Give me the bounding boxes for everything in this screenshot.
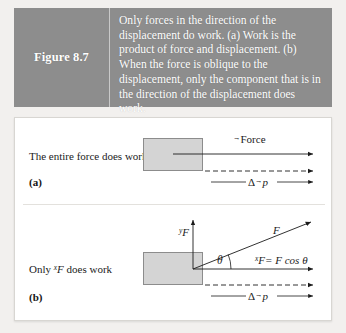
vector-arrow-icon: → [255,176,263,185]
panel-a-description: The entire force does work [29,150,148,162]
panel-a-momentum-symbol: p [263,176,269,188]
vector-arrow-icon: → [255,290,263,299]
panel-a-letter: (a) [29,176,42,188]
panel-b-vertical-symbol: F [182,226,189,238]
figure-label-cell: Figure 8.7 [14,8,110,107]
panel-b-angle-label: θ [217,254,223,266]
panel-b-letter: (b) [29,291,42,303]
figure-caption-text: Only forces in the direction of the disp… [119,14,324,117]
panel-b-momentum-label: Δ→p [248,290,268,302]
panel-a-force-label: →Force [233,133,266,145]
diagram-panel: The entire force does work →Force Δ→p (a… [14,117,332,321]
figure-number-label: Figure 8.7 [34,50,89,65]
panel-a-force-label-text: Force [241,133,266,145]
panel-b-description: Only xF does work [29,263,112,275]
panel-b-oblique-force-label: F [273,224,280,236]
panel-a-momentum-label: Δ→p [248,176,268,188]
figure-caption-cell: Only forces in the direction of the disp… [110,8,332,107]
panel-a: The entire force does work →Force Δ→p (a… [15,118,331,204]
panel-b-component-equation: xF= F cos θ [255,254,308,266]
figure-8-7-root: Figure 8.7 Only forces in the direction … [0,0,346,333]
vector-arrow-icon: → [233,133,241,142]
panel-b-block [143,252,203,285]
panel-a-block [143,138,203,171]
panel-b-description-prefix: Only [29,263,54,275]
panel-b-equation-rhs: = F cos θ [265,254,307,266]
figure-caption-band: Figure 8.7 Only forces in the direction … [14,8,332,107]
panel-b-angle-arc [228,255,231,270]
panel-b-description-suffix: does work [64,263,112,275]
panel-b-momentum-symbol: p [263,290,269,302]
panel-b-description-symbol: F [57,263,64,275]
panel-b: Only xF does work yF F θ xF= F cos θ Δ→p… [15,204,331,322]
panel-b-vertical-component-label: yF [179,226,189,238]
